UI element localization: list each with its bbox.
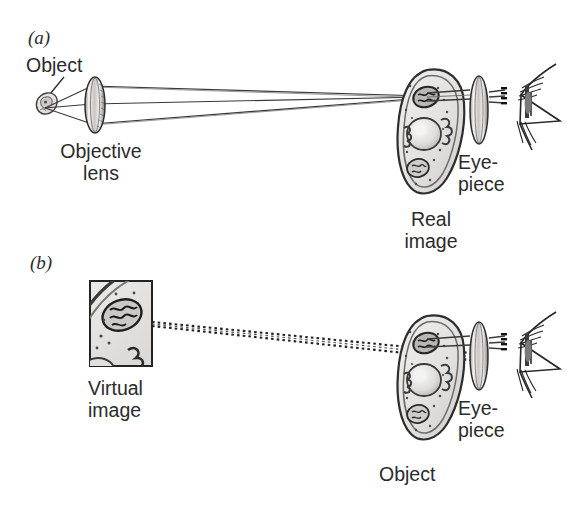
real-image-cell	[398, 69, 465, 193]
label-object-a: Object	[26, 55, 82, 76]
figure-canvas: (a) Object Objective lens Eye- piece Rea…	[0, 0, 585, 515]
label-object-b: Object	[379, 464, 435, 485]
label-eyepiece-b-line1: Eye-	[458, 398, 498, 419]
object-cell-b	[398, 315, 465, 439]
eyepiece-lens-b	[470, 322, 488, 390]
virtual-image-frame	[60, 259, 210, 386]
label-eyepiece-b-line2: piece	[458, 420, 505, 441]
panel-label-b: (b)	[30, 252, 52, 274]
panel-label-a: (a)	[28, 27, 50, 49]
label-virtual-image-line1: Virtual	[88, 378, 143, 399]
eyepiece-lens-a	[470, 76, 488, 144]
label-real-image-line1: Real	[386, 209, 476, 230]
label-objective-lens-line1: Objective	[41, 141, 161, 162]
label-eyepiece-a-line2: piece	[458, 174, 505, 195]
eye-icon-a	[517, 64, 560, 150]
eyepiece-beam-a	[427, 90, 505, 103]
object-leader-line	[50, 77, 64, 94]
label-eyepiece-a-line1: Eye-	[458, 152, 498, 173]
label-virtual-image-line2: image	[88, 400, 141, 421]
label-real-image-line2: image	[386, 231, 476, 252]
eye-icon-b	[517, 312, 560, 398]
label-objective-lens-line2: lens	[41, 163, 161, 184]
objective-lens	[85, 77, 105, 133]
